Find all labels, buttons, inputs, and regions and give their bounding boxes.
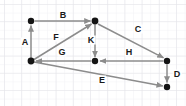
edge-label-D: D <box>173 70 182 79</box>
node-bottom-left <box>28 58 35 65</box>
grid-major-layer <box>0 0 186 106</box>
edge-label-E: E <box>98 76 106 85</box>
edge-label-H: H <box>125 48 134 57</box>
node-center <box>92 58 98 64</box>
edge-label-G: G <box>57 48 66 57</box>
edge-label-K: K <box>87 36 96 45</box>
edge-label-A: A <box>21 38 30 47</box>
node-top-left <box>28 18 34 24</box>
edge-label-C: C <box>134 25 143 34</box>
edge-label-F: F <box>52 33 60 42</box>
edge-label-B: B <box>59 11 68 20</box>
node-right-upper <box>164 58 170 64</box>
node-top-middle <box>92 18 99 25</box>
node-right-lower <box>164 84 170 90</box>
graph-canvas <box>0 0 186 106</box>
graph-diagram: A B C D E F G H K <box>0 0 186 106</box>
